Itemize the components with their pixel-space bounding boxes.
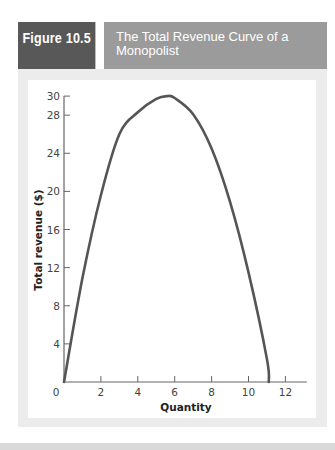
y-tick-label: 24 — [47, 147, 61, 159]
y-tick-label: 28 — [47, 109, 60, 121]
x-tick-label: 12 — [279, 386, 292, 398]
x-tick-label: 10 — [242, 386, 255, 398]
x-tick-label: 8 — [208, 386, 215, 398]
total-revenue-curve — [64, 96, 269, 382]
y-tick-label: 12 — [47, 262, 60, 274]
x-axis-title: Quantity — [160, 401, 212, 413]
x-tick-label: 4 — [134, 386, 141, 398]
y-tick-label: 20 — [47, 185, 60, 197]
tick-marks — [64, 96, 285, 382]
x-tick-label: 2 — [98, 386, 105, 398]
y-tick-label: 4 — [53, 338, 60, 350]
y-axis-title: Total revenue ($) — [32, 189, 44, 290]
tick-labels: 48121620242830024681012 — [47, 90, 292, 398]
x-tick-label: 6 — [171, 386, 178, 398]
y-tick-label: 16 — [47, 224, 61, 236]
y-tick-label: 8 — [53, 300, 60, 312]
x-tick-label: 0 — [53, 386, 60, 398]
total-revenue-chart: 48121620242830024681012 Quantity Total r… — [0, 0, 335, 450]
y-tick-label: 30 — [47, 90, 60, 102]
axes — [64, 96, 307, 382]
